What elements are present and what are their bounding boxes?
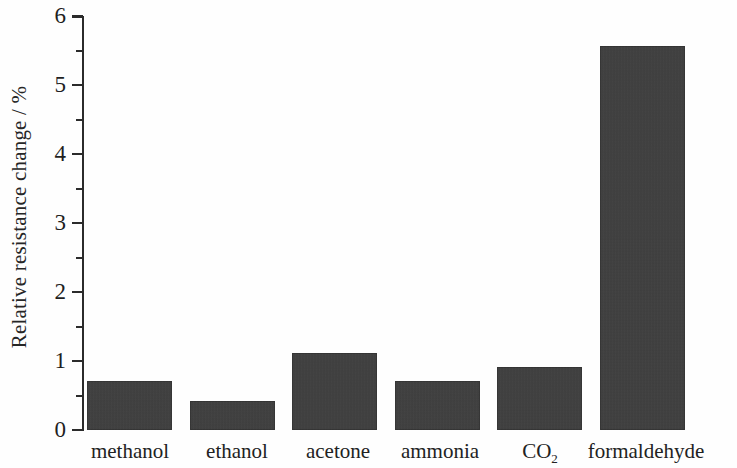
y-tick-label-2: 2	[20, 280, 66, 303]
bar-formaldehyde	[600, 46, 685, 430]
bar-methanol	[87, 381, 172, 430]
bar-ammonia	[395, 381, 480, 430]
y-tick-label-3: 3	[20, 211, 66, 234]
y-tick-minor	[76, 395, 83, 397]
y-tick-major-1	[72, 360, 83, 362]
y-tick-major-5	[72, 84, 83, 86]
bar-ethanol	[190, 401, 275, 430]
y-tick-minor	[76, 257, 83, 259]
x-label-co2-text: CO	[522, 439, 551, 463]
y-tick-minor	[76, 326, 83, 328]
bar-chart-figure: Relative resistance change / % 0123456 m…	[0, 0, 737, 468]
y-tick-minor	[76, 119, 83, 121]
y-tick-label-6: 6	[20, 4, 66, 27]
plot-area	[83, 17, 737, 430]
y-tick-label-1: 1	[20, 349, 66, 372]
y-tick-major-6	[72, 15, 83, 17]
y-tick-major-0	[72, 429, 83, 431]
x-label-formaldehyde: formaldehyde	[557, 436, 735, 466]
y-tick-major-2	[72, 291, 83, 293]
y-tick-label-5: 5	[20, 73, 66, 96]
bar-acetone	[292, 353, 377, 430]
y-tick-minor	[76, 188, 83, 190]
y-tick-major-4	[72, 153, 83, 155]
x-axis-label-row: methanol ethanol acetone ammonia CO2 for…	[0, 436, 737, 468]
y-tick-label-4: 4	[20, 142, 66, 165]
bar-CO2	[497, 367, 582, 430]
y-tick-minor	[76, 50, 83, 52]
y-tick-major-3	[72, 222, 83, 224]
